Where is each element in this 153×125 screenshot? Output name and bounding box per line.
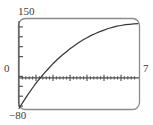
origin-label: 0 (4, 63, 10, 74)
graph-figure: 150 −80 0 7 (0, 0, 153, 125)
y-max-label: 150 (18, 6, 35, 17)
plot-frame (19, 19, 140, 110)
y-min-label: −80 (9, 110, 26, 121)
x-max-label: 7 (143, 63, 149, 74)
plot-canvas (0, 0, 153, 125)
